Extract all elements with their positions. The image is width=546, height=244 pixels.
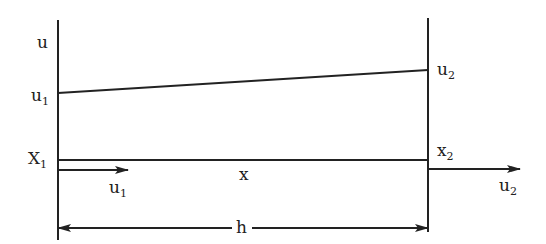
displacement-line: [58, 70, 428, 93]
length-h-label: h: [236, 217, 247, 237]
u1-arrow-label: u1: [109, 177, 127, 200]
axis-u-label: u: [37, 32, 48, 52]
u1-left-label: u1: [31, 85, 49, 108]
element-diagram: u u1 u2 X1 x2 x u1 u2 h: [0, 0, 546, 244]
coord-x-label: x: [239, 164, 249, 184]
node2-label: x2: [437, 140, 454, 163]
u2-right-label: u2: [437, 59, 455, 82]
node1-label: X1: [28, 148, 47, 171]
u2-arrow-label: u2: [499, 175, 517, 198]
